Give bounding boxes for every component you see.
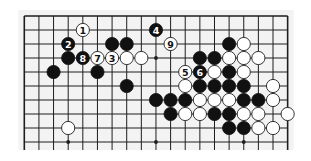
black-stone: 4: [149, 23, 162, 36]
black-stone: [47, 65, 60, 78]
star-point-icon: [66, 140, 70, 144]
black-stone: 2: [62, 37, 75, 50]
white-stone-icon: [266, 93, 279, 106]
star-point-icon: [154, 140, 158, 144]
black-stone-icon: [179, 93, 192, 106]
black-stone: [91, 65, 104, 78]
black-stone: [223, 37, 236, 50]
white-stone-icon: [223, 93, 236, 106]
white-stone: [223, 93, 236, 106]
black-stone-icon: [91, 65, 104, 78]
white-stone-icon: [208, 65, 221, 78]
black-stone: 6: [193, 65, 206, 78]
black-stone: [193, 79, 206, 92]
white-stone: [252, 121, 265, 134]
white-stone-icon: [135, 51, 148, 64]
black-stone: [237, 79, 250, 92]
black-stone: [252, 93, 265, 106]
move-number: 7: [94, 53, 101, 64]
white-stone: [179, 107, 192, 120]
move-number: 2: [65, 39, 72, 50]
black-stone-icon: [237, 79, 250, 92]
white-stone: [237, 37, 250, 50]
black-stone-icon: [223, 121, 236, 134]
black-stone: [237, 121, 250, 134]
black-stone-icon: [237, 93, 250, 106]
white-stone: [266, 93, 279, 106]
move-number: 9: [167, 39, 174, 50]
black-stone-icon: [105, 37, 118, 50]
white-stone: [223, 51, 236, 64]
white-stone-icon: [266, 121, 279, 134]
white-stone-icon: [237, 107, 250, 120]
white-stone: [237, 51, 250, 64]
white-stone: [252, 107, 265, 120]
white-stone-icon: [252, 121, 265, 134]
white-stone-icon: [252, 51, 265, 64]
white-stone: [252, 51, 265, 64]
white-stone-icon: [237, 37, 250, 50]
star-point-icon: [154, 56, 158, 60]
black-stone-icon: [193, 51, 206, 64]
black-stone: [120, 79, 133, 92]
black-stone: [120, 37, 133, 50]
white-stone: 7: [91, 51, 104, 64]
black-stone-icon: [223, 79, 236, 92]
white-stone: [193, 93, 206, 106]
move-number: 8: [80, 53, 87, 64]
black-stone-icon: [252, 93, 265, 106]
black-stone: [105, 37, 118, 50]
white-stone: [135, 51, 148, 64]
white-stone: [208, 93, 221, 106]
black-stone-icon: [208, 51, 221, 64]
black-stone-icon: [164, 107, 177, 120]
black-stone: [62, 51, 75, 64]
white-stone: 3: [105, 51, 118, 64]
white-stone-icon: [237, 51, 250, 64]
black-stone: [149, 93, 162, 106]
white-stone-icon: [179, 79, 192, 92]
black-stone-icon: [149, 93, 162, 106]
black-stone: [164, 93, 177, 106]
black-stone: [208, 107, 221, 120]
move-number: 6: [197, 67, 204, 78]
move-number: 4: [153, 25, 160, 36]
white-stone: [237, 65, 250, 78]
black-stone-icon: [208, 107, 221, 120]
white-stone: [281, 107, 294, 120]
black-stone: [208, 51, 221, 64]
black-stone-icon: [120, 79, 133, 92]
black-stone: [223, 65, 236, 78]
black-stone: [223, 121, 236, 134]
star-point-icon: [242, 140, 246, 144]
black-stone: [223, 79, 236, 92]
black-stone: [223, 107, 236, 120]
white-stone: [208, 65, 221, 78]
black-stone: 8: [76, 51, 89, 64]
white-stone-icon: [252, 107, 265, 120]
white-stone: 9: [164, 37, 177, 50]
black-stone-icon: [208, 79, 221, 92]
white-stone-icon: [120, 51, 133, 64]
white-stone-icon: [208, 93, 221, 106]
black-stone-icon: [47, 65, 60, 78]
black-stone-icon: [193, 79, 206, 92]
black-stone-icon: [237, 121, 250, 134]
white-stone-icon: [193, 93, 206, 106]
white-stone: 1: [76, 23, 89, 36]
white-stone-icon: [237, 65, 250, 78]
black-stone-icon: [223, 107, 236, 120]
white-stone: 5: [179, 65, 192, 78]
black-stone: [164, 107, 177, 120]
black-stone: [237, 93, 250, 106]
white-stone: [237, 107, 250, 120]
black-stone-icon: [120, 37, 133, 50]
white-stone-icon: [62, 121, 75, 134]
move-number: 1: [80, 25, 87, 36]
black-stone-icon: [223, 65, 236, 78]
white-stone-icon: [281, 107, 294, 120]
black-stone: [208, 79, 221, 92]
white-stone: [193, 107, 206, 120]
go-board-diagram: 142987356: [0, 0, 311, 161]
white-stone-icon: [223, 51, 236, 64]
